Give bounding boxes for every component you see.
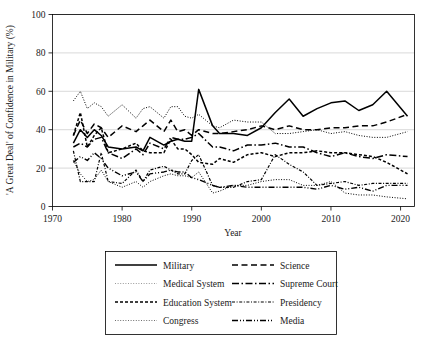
y-tick-label-80: 80	[36, 48, 46, 58]
y-tick-label-100: 100	[31, 10, 46, 20]
x-tick-label-2010: 2010	[321, 214, 340, 224]
y-tick-label-60: 60	[36, 87, 46, 97]
chart-svg: 020406080100 197019801990200020102020 Ye…	[0, 0, 430, 347]
legend-label-congress: Congress	[163, 316, 199, 326]
y-tick-label-20: 20	[36, 164, 46, 174]
x-tick-label-2020: 2020	[391, 214, 410, 224]
legend-label-science: Science	[280, 261, 310, 271]
legend-label-media: Media	[280, 316, 305, 326]
legend-label-medical-system: Medical System	[163, 279, 225, 289]
x-tick-label-1990: 1990	[182, 214, 201, 224]
x-tick-label-1970: 1970	[43, 214, 62, 224]
y-tick-label-40: 40	[36, 125, 46, 135]
legend-label-presidency: Presidency	[280, 298, 322, 308]
legend-label-supreme-court: Supreme Court	[280, 279, 338, 289]
x-axis-label: Year	[224, 228, 242, 238]
y-tick-label-0: 0	[41, 202, 46, 212]
legend-label-education-system: Education System	[163, 298, 232, 308]
x-tick-label-2000: 2000	[252, 214, 271, 224]
chart-figure: 020406080100 197019801990200020102020 Ye…	[0, 0, 430, 347]
x-tick-label-1980: 1980	[113, 214, 132, 224]
legend-label-military: Military	[163, 261, 194, 271]
y-axis-label: 'A Great Deal' of Confidence in Military…	[5, 25, 16, 195]
